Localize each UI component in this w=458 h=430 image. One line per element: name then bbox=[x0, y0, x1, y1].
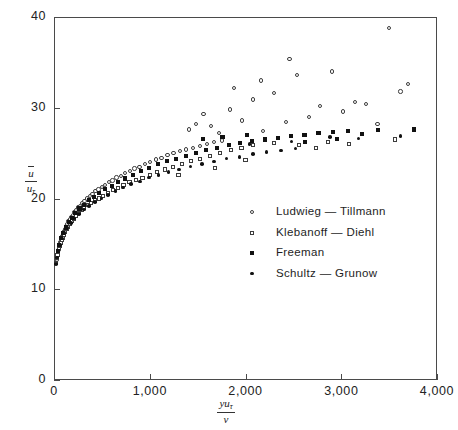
data-point-series-2 bbox=[346, 129, 350, 133]
legend-label-2: Freeman bbox=[276, 246, 324, 258]
data-point-series-3 bbox=[82, 208, 86, 212]
data-point-series-2 bbox=[204, 148, 208, 152]
data-point-series-2 bbox=[245, 133, 249, 137]
data-point-series-2 bbox=[116, 180, 120, 184]
data-point-series-1 bbox=[314, 146, 318, 150]
legend-marker-filled-circle-icon bbox=[250, 272, 254, 276]
data-point-series-2 bbox=[201, 137, 205, 141]
data-point-series-1 bbox=[393, 137, 397, 141]
data-point-series-0 bbox=[187, 127, 191, 131]
x-tick-label-1: 1,000 bbox=[110, 384, 190, 398]
legend-item-2: Freeman bbox=[248, 244, 408, 265]
data-point-series-2 bbox=[412, 127, 416, 131]
data-point-series-3 bbox=[157, 173, 161, 177]
legend-label-0: Ludwieg — Tillmann bbox=[276, 205, 386, 217]
data-point-series-2 bbox=[174, 157, 178, 161]
data-point-series-1 bbox=[272, 141, 276, 145]
data-point-series-3 bbox=[212, 160, 216, 164]
data-point-series-2 bbox=[139, 169, 143, 173]
data-point-series-2 bbox=[110, 184, 114, 188]
legend-item-0: Ludwieg — Tillmann bbox=[248, 203, 408, 224]
data-point-series-1 bbox=[251, 143, 255, 147]
x-tick-label-2: 2,000 bbox=[206, 384, 286, 398]
data-point-series-3 bbox=[93, 200, 97, 204]
y-axis-title: u uτ bbox=[14, 168, 48, 195]
data-point-series-3 bbox=[58, 243, 62, 247]
data-point-series-2 bbox=[92, 195, 96, 199]
data-point-series-2 bbox=[87, 198, 91, 202]
data-point-series-1 bbox=[218, 151, 222, 155]
x-tick bbox=[437, 374, 438, 380]
data-point-series-2 bbox=[238, 141, 242, 145]
data-point-series-2 bbox=[77, 206, 81, 210]
data-point-series-3 bbox=[87, 204, 91, 208]
x-tick-label-3: 3,000 bbox=[301, 384, 381, 398]
data-point-series-3 bbox=[60, 237, 64, 241]
data-point-series-3 bbox=[69, 221, 73, 225]
data-point-series-0 bbox=[240, 118, 244, 122]
data-point-series-0 bbox=[198, 144, 202, 148]
data-point-series-3 bbox=[328, 135, 332, 139]
y-axis-numerator: u bbox=[28, 167, 34, 179]
data-point-series-1 bbox=[176, 173, 180, 177]
data-point-series-3 bbox=[54, 262, 58, 266]
data-point-series-0 bbox=[159, 156, 163, 160]
data-point-series-3 bbox=[63, 231, 67, 235]
data-point-series-1 bbox=[347, 142, 351, 146]
data-point-series-3 bbox=[55, 256, 59, 260]
legend-label-1: Klebanoff — Diehl bbox=[276, 226, 374, 238]
y-axis-denominator-sub: τ bbox=[32, 186, 35, 195]
data-point-series-0 bbox=[201, 112, 205, 116]
data-point-series-2 bbox=[376, 128, 380, 132]
data-point-series-2 bbox=[263, 137, 267, 141]
x-axis-denominator: ν bbox=[224, 413, 229, 425]
data-point-series-1 bbox=[239, 146, 243, 150]
data-point-series-2 bbox=[303, 140, 307, 144]
legend-item-3: Schultz — Grunow bbox=[248, 265, 408, 286]
x-tick bbox=[246, 374, 247, 380]
right-axis-line bbox=[436, 17, 437, 380]
data-point-series-3 bbox=[57, 249, 61, 253]
data-point-series-0 bbox=[398, 89, 402, 93]
data-point-series-2 bbox=[302, 133, 306, 137]
data-point-series-3 bbox=[121, 186, 125, 190]
data-point-series-2 bbox=[82, 203, 86, 207]
data-point-series-3 bbox=[399, 134, 403, 138]
y-tick bbox=[54, 108, 60, 109]
data-point-series-3 bbox=[114, 189, 118, 193]
y-tick bbox=[54, 17, 60, 18]
data-point-series-3 bbox=[106, 193, 110, 197]
data-point-series-0 bbox=[191, 146, 195, 150]
data-point-series-2 bbox=[360, 132, 364, 136]
legend-label-3: Schultz — Grunow bbox=[276, 267, 377, 279]
legend-marker-filled-square-icon bbox=[250, 251, 254, 255]
x-tick bbox=[150, 374, 151, 380]
y-tick bbox=[54, 199, 60, 200]
data-point-series-2 bbox=[215, 146, 219, 150]
data-point-series-0 bbox=[259, 78, 263, 82]
data-point-series-1 bbox=[326, 140, 330, 144]
data-point-series-2 bbox=[316, 131, 320, 135]
data-point-series-2 bbox=[165, 159, 169, 163]
data-point-series-3 bbox=[129, 182, 133, 186]
legend-marker-open-circle-icon bbox=[250, 210, 254, 214]
chart-legend: Ludwieg — TillmannKlebanoff — DiehlFreem… bbox=[248, 203, 408, 285]
data-point-series-2 bbox=[276, 136, 280, 140]
data-point-series-1 bbox=[171, 165, 175, 169]
data-point-series-0 bbox=[171, 151, 175, 155]
x-axis-numerator-sub: τ bbox=[230, 402, 233, 411]
data-point-series-2 bbox=[156, 162, 160, 166]
y-tick-label-1: 10 bbox=[0, 281, 46, 295]
data-point-series-2 bbox=[123, 176, 127, 180]
data-point-series-1 bbox=[180, 162, 184, 166]
x-tick bbox=[341, 374, 342, 380]
data-point-series-0 bbox=[375, 122, 379, 126]
x-axis-title: yuτ ν bbox=[181, 398, 271, 425]
data-point-series-2 bbox=[184, 154, 188, 158]
data-point-series-0 bbox=[132, 166, 136, 170]
data-point-series-2 bbox=[194, 151, 198, 155]
data-point-series-1 bbox=[208, 154, 212, 158]
data-point-series-1 bbox=[229, 148, 233, 152]
data-point-series-1 bbox=[243, 158, 247, 162]
